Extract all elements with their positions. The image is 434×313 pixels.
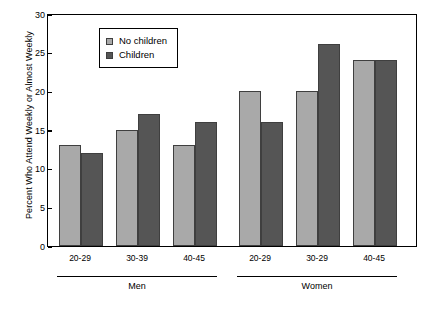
y-axis-title: Percent Who Attend Weekly or Almost Week… bbox=[24, 0, 34, 250]
legend-swatch-children-icon bbox=[106, 52, 113, 59]
legend-label-children: Children bbox=[119, 50, 154, 60]
bar-chart-figure: Percent Who Attend Weekly or Almost Week… bbox=[0, 0, 434, 313]
bar-men-30-39-no-children bbox=[116, 130, 138, 247]
group-label-men: Men bbox=[128, 281, 146, 291]
x-label-men-30-39: 30-39 bbox=[126, 253, 148, 263]
y-tick-mark bbox=[48, 246, 52, 247]
figure-caption bbox=[10, 305, 428, 313]
group-rule-women bbox=[237, 276, 397, 277]
bar-men-20-29-no-children bbox=[59, 145, 81, 246]
group-label-women: Women bbox=[302, 281, 333, 291]
bar-men-20-29-children bbox=[81, 153, 103, 246]
x-label-women-40-45: 40-45 bbox=[363, 253, 385, 263]
legend-item-children: Children bbox=[106, 48, 167, 62]
bar-women-30-29-children bbox=[318, 44, 340, 246]
bar-men-40-45-children bbox=[195, 122, 217, 246]
x-label-women-30-29: 30-29 bbox=[306, 253, 328, 263]
legend-item-no-children: No children bbox=[106, 34, 167, 48]
x-label-men-20-29: 20-29 bbox=[69, 253, 91, 263]
plot-area: 0 5 10 15 20 25 30 bbox=[47, 14, 417, 247]
bar-men-30-39-children bbox=[138, 114, 160, 246]
legend-label-no-children: No children bbox=[119, 36, 167, 46]
legend-swatch-no-children-icon bbox=[106, 38, 113, 45]
group-rule-men bbox=[57, 276, 217, 277]
bar-men-40-45-no-children bbox=[173, 145, 195, 246]
chart-legend: No children Children bbox=[99, 28, 178, 68]
x-label-women-20-29: 20-29 bbox=[249, 253, 271, 263]
bar-women-40-45-no-children bbox=[353, 60, 375, 246]
bar-women-40-45-children bbox=[375, 60, 397, 246]
bar-women-20-29-children bbox=[261, 122, 283, 246]
bar-women-30-29-no-children bbox=[296, 91, 318, 246]
x-label-men-40-45: 40-45 bbox=[183, 253, 205, 263]
bar-women-20-29-no-children bbox=[239, 91, 261, 246]
